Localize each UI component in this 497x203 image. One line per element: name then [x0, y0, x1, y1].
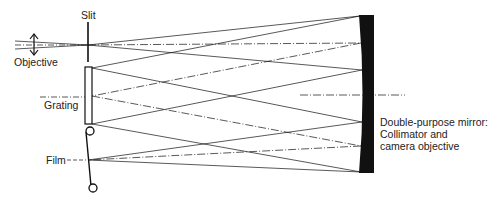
slit-label: Slit: [81, 9, 96, 21]
objective-lens-icon: [30, 34, 38, 55]
mirror-element: [359, 15, 374, 173]
film-label: Film: [46, 154, 66, 166]
mirror-label-line-1: Double-purpose mirror:: [380, 116, 488, 128]
mirror-label: Double-purpose mirror: Collimator and ca…: [380, 116, 488, 152]
mirror-label-line-3: camera objective: [380, 140, 488, 152]
spectrograph-diagram: Slit Objective Grating Film Double-purpo…: [0, 0, 497, 203]
objective-label: Objective: [14, 56, 58, 68]
grating-element: [85, 67, 92, 124]
mirror-label-line-2: Collimator and: [380, 128, 488, 140]
grating-label: Grating: [44, 99, 78, 111]
